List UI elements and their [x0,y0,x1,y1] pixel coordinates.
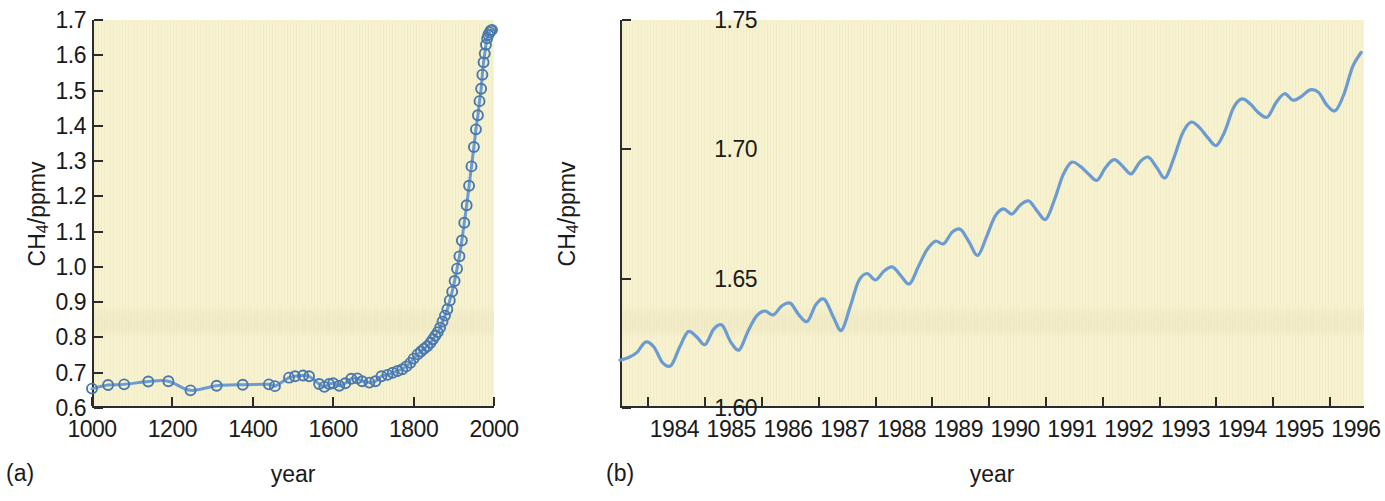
x-tick-label-2000: 2000 [469,418,518,441]
x-tick-1990 [988,397,990,406]
x-tick-1400 [252,397,254,406]
y-tick-label-1.75: 1.75 [714,9,757,32]
x-tick-label-1985: 1985 [707,418,756,441]
y-tick-label-1.7: 1.7 [56,9,86,32]
y-tick-label-0.8: 0.8 [56,326,86,349]
y-tick-1.1 [94,231,103,233]
x-tick-1992 [1102,397,1104,406]
x-tick-label-1994: 1994 [1218,418,1267,441]
x-tick-label-1984: 1984 [650,418,699,441]
y-tick-0.9 [94,301,103,303]
y-axis-label-b: CH4/ppmv [556,162,581,267]
x-tick-label-1988: 1988 [877,418,926,441]
y-tick-label-1.3: 1.3 [56,150,86,173]
x-tick-label-1600: 1600 [309,418,358,441]
y-tick-1.7 [94,19,103,21]
y-tick-label-1.1: 1.1 [56,220,86,243]
x-tick-1991 [1045,397,1047,406]
y-tick-label-1.70: 1.70 [714,138,757,161]
series-markers [87,25,497,395]
x-tick-label-1000: 1000 [67,418,116,441]
x-tick-2000 [493,397,495,406]
y-tick-1.3 [94,160,103,162]
y-tick-1.2 [94,195,103,197]
x-tick-1996 [1329,397,1331,406]
x-tick-label-1991: 1991 [1047,418,1096,441]
y-tick-1.60 [622,407,631,409]
y-tick-label-1.2: 1.2 [56,185,86,208]
x-tick-label-1800: 1800 [389,418,438,441]
y-tick-1.75 [622,19,631,21]
x-tick-1984 [647,397,649,406]
x-tick-label-1993: 1993 [1161,418,1210,441]
x-tick-1994 [1215,397,1217,406]
y-tick-label-1.6: 1.6 [56,44,86,67]
x-axis-label-a: year [271,463,316,486]
x-tick-1989 [931,397,933,406]
x-tick-1988 [875,397,877,406]
y-tick-1.6 [94,54,103,56]
y-tick-label-1.5: 1.5 [56,79,86,102]
plot-area-b [620,20,1364,408]
x-tick-label-1200: 1200 [148,418,197,441]
x-tick-1995 [1272,397,1274,406]
data-series-b [620,20,1364,408]
y-tick-label-0.9: 0.9 [56,291,86,314]
y-tick-label-0.7: 0.7 [56,361,86,384]
y-tick-label-1.0: 1.0 [56,255,86,278]
x-tick-label-1990: 1990 [991,418,1040,441]
x-tick-1000 [91,397,93,406]
x-tick-1985 [704,397,706,406]
y-tick-label-1.65: 1.65 [714,267,757,290]
x-tick-1986 [761,397,763,406]
y-tick-1.5 [94,90,103,92]
y-axis-label-a: CH4/ppmv [26,162,51,267]
plot-area-a [92,20,494,408]
x-tick-1600 [332,397,334,406]
panel-tag-b: (b) [606,462,634,485]
series-line [620,52,1361,366]
figure-ch4-concentration: 0.60.70.80.91.01.11.21.31.41.51.61.7 100… [0,0,1385,501]
y-tick-0.7 [94,372,103,374]
panel-b: 1.601.651.701.75 19841985198619871988198… [690,0,1385,501]
x-tick-label-1986: 1986 [763,418,812,441]
y-tick-label-1.4: 1.4 [56,114,86,137]
x-tick-label-1400: 1400 [228,418,277,441]
x-tick-1200 [171,397,173,406]
y-tick-1.70 [622,148,631,150]
series-line [92,30,492,391]
x-tick-1987 [818,397,820,406]
y-tick-1.4 [94,125,103,127]
x-tick-label-1996: 1996 [1331,418,1380,441]
x-tick-label-1987: 1987 [820,418,869,441]
y-tick-0.8 [94,336,103,338]
y-tick-1.65 [622,278,631,280]
x-tick-label-1995: 1995 [1275,418,1324,441]
y-tick-0.6 [94,407,103,409]
x-axis-label-b: year [970,463,1015,486]
x-tick-label-1989: 1989 [934,418,983,441]
x-tick-1993 [1159,397,1161,406]
y-tick-1.0 [94,266,103,268]
panel-tag-a: (a) [6,462,34,485]
panel-a: 0.60.70.80.91.01.11.21.31.41.51.61.7 100… [0,0,690,501]
x-tick-1800 [413,397,415,406]
x-tick-label-1992: 1992 [1104,418,1153,441]
data-series-a [92,20,494,408]
